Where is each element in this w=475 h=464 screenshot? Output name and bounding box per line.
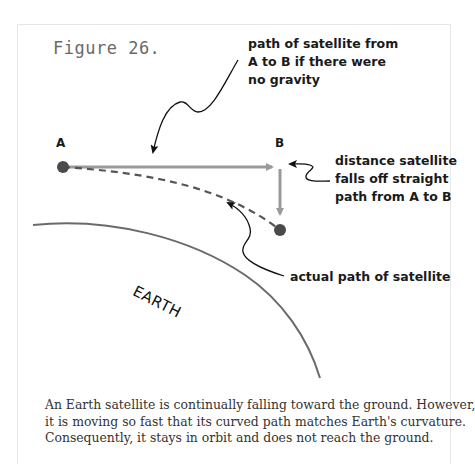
- actual-path-label: actual path of satellite: [290, 268, 450, 286]
- figure-caption: An Earth satellite is continually fallin…: [45, 397, 445, 447]
- no-gravity-path-label: path of satellite from A to B if there w…: [248, 35, 398, 89]
- satellite-end-dot: [274, 224, 286, 236]
- label-line: falls off straight: [335, 170, 457, 188]
- label-line: path of satellite from: [248, 35, 398, 53]
- no-gravity-pointer-arrow: [153, 60, 238, 152]
- point-a-label: A: [56, 136, 65, 150]
- label-line: path from A to B: [335, 188, 457, 206]
- caption-line: it is moving so fast that its curved pat…: [45, 414, 445, 431]
- caption-line: Consequently, it stays in orbit and does…: [45, 430, 445, 447]
- label-line: distance satellite: [335, 152, 457, 170]
- actual-path-pointer-arrow: [228, 203, 284, 276]
- fall-distance-label: distance satellite falls off straight pa…: [335, 152, 457, 206]
- point-a-dot: [57, 161, 69, 173]
- caption-line: An Earth satellite is continually fallin…: [45, 397, 445, 414]
- actual-curved-path: [63, 167, 276, 227]
- label-line: no gravity: [248, 71, 398, 89]
- fall-distance-pointer-arrow: [290, 164, 330, 181]
- label-line: A to B if there were: [248, 53, 398, 71]
- point-b-label: B: [275, 136, 284, 150]
